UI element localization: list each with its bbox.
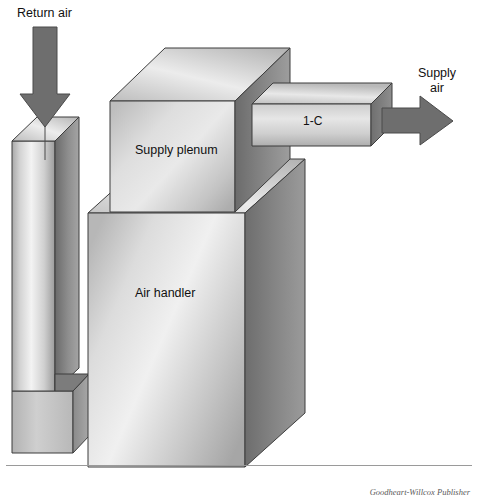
supply-plenum-label: Supply plenum: [135, 143, 218, 158]
return-duct: [12, 117, 89, 453]
air-handler-front-face: [88, 213, 245, 467]
air-handler-side-face: [245, 159, 305, 467]
supply-air-label-line1: Supply: [408, 66, 466, 81]
branch-duct-top-face: [252, 83, 392, 104]
supply-air-arrow-shape: [382, 96, 453, 145]
return-air-arrow-shape: [20, 27, 70, 127]
return-air-arrow: [20, 27, 70, 127]
branch-duct-label: 1-C: [303, 114, 322, 128]
return-duct-front-face: [12, 141, 55, 391]
supply-air-label: Supply air: [408, 66, 466, 96]
return-air-label: Return air: [17, 6, 72, 21]
supply-air-label-line2: air: [408, 81, 466, 96]
supply-air-arrow: [382, 96, 453, 145]
hvac-diagram-figure: Return air Supply air Supply plenum 1-C …: [0, 0, 478, 503]
air-handler-label: Air handler: [135, 286, 195, 301]
return-duct-base-front-face: [12, 391, 73, 453]
return-duct-side-face: [55, 117, 79, 391]
diagram-canvas: [0, 0, 478, 503]
publisher-credit: Goodheart-Willcox Publisher: [370, 487, 470, 497]
bottom-divider: [6, 465, 472, 466]
